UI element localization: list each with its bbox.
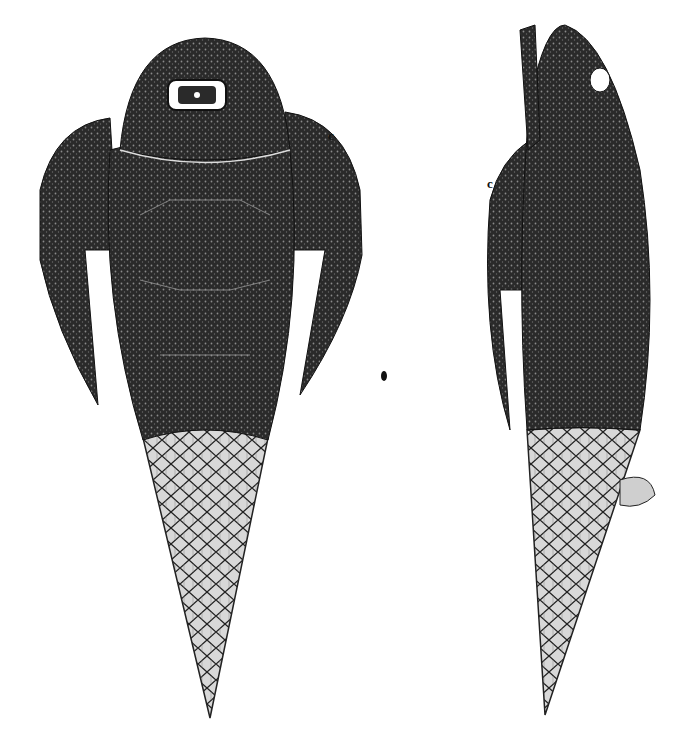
label-c-lateral: c bbox=[487, 176, 493, 192]
engraving bbox=[0, 0, 687, 741]
figure-canvas: c c bbox=[0, 0, 687, 741]
lateral-view bbox=[488, 25, 656, 715]
label-c-dorsal: c bbox=[328, 128, 334, 144]
dorsal-view bbox=[40, 38, 362, 718]
specimen-mark bbox=[381, 371, 387, 381]
